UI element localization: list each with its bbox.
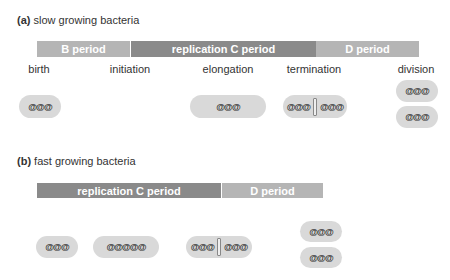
fast-c-period-bar: replication C period <box>37 183 221 198</box>
dna-icon: @@@ <box>320 102 343 112</box>
b-period-bar: B period <box>37 41 130 57</box>
fast-cell-division-bottom: @@@ <box>300 247 342 268</box>
cell-division-top: @@@ <box>396 80 438 102</box>
panel-b-title: (b) fast growing bacteria <box>17 155 136 167</box>
dna-icon: @@@ <box>309 227 332 237</box>
dna-icon: @@@ <box>45 242 68 252</box>
dna-icon: @@@ <box>216 102 239 112</box>
cell-birth: @@@ <box>19 95 61 118</box>
panel-a-title-text: slow growing bacteria <box>34 14 140 26</box>
stage-elongation: elongation <box>203 63 254 75</box>
cell-termination: @@@@@@ <box>283 95 347 118</box>
cell-elongation: @@@ <box>190 95 266 118</box>
fast-cell-3: @@@@@@ <box>186 236 252 258</box>
dna-icon: @@@ <box>405 112 428 122</box>
dna-icon: @@@ <box>224 242 247 252</box>
dna-icon: @@@ <box>191 242 214 252</box>
dna-icon: @@@ <box>28 102 51 112</box>
dna-icon: @@@ <box>287 102 310 112</box>
septum-icon <box>217 238 221 256</box>
panel-a-title: (a) slow growing bacteria <box>17 14 139 26</box>
stage-termination: termination <box>287 63 341 75</box>
cell-division-bottom: @@@ <box>396 106 438 128</box>
panel-b-letter: (b) <box>17 155 31 167</box>
diagram: (a) slow growing bacteria B period repli… <box>0 0 450 280</box>
dna-icon: @@@ <box>309 253 332 263</box>
fast-cell-division-top: @@@ <box>300 221 342 242</box>
dna-icon: @@@@@ <box>107 242 146 252</box>
stage-division: division <box>398 63 435 75</box>
fast-cell-1: @@@ <box>36 236 78 258</box>
panel-b-title-text: fast growing bacteria <box>34 155 136 167</box>
fast-cell-2: @@@@@ <box>93 236 159 258</box>
d-period-bar: D period <box>316 41 419 57</box>
dna-icon: @@@ <box>405 86 428 96</box>
c-period-bar: replication C period <box>131 41 316 57</box>
panel-a-letter: (a) <box>17 14 30 26</box>
fast-d-period-bar: D period <box>222 183 323 198</box>
septum-icon <box>313 98 317 116</box>
stage-birth: birth <box>28 63 49 75</box>
stage-initiation: initiation <box>110 63 150 75</box>
